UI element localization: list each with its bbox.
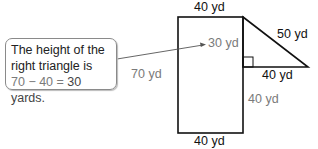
label-rect-left: 70 yd [131, 67, 162, 81]
label-hypotenuse: 50 yd [277, 27, 308, 41]
right-angle-marker [243, 57, 253, 67]
callout-equation: 70 − 40 = 30 yards. [11, 74, 111, 106]
label-triangle-base: 40 yd [262, 68, 293, 82]
explanation-callout: The height of the right triangle is 70 −… [5, 38, 117, 90]
callout-line-2: right triangle is [11, 58, 111, 74]
label-rect-top: 40 yd [194, 0, 225, 14]
callout-arrow [117, 45, 203, 59]
equation-expression: 70 − 40 = [11, 75, 67, 89]
label-lower-right: 40 yd [248, 92, 279, 106]
rectangle [178, 17, 243, 133]
arrow-head-icon [200, 43, 206, 48]
label-rect-bottom: 40 yd [194, 134, 225, 148]
callout-line-1: The height of the [11, 42, 111, 58]
label-triangle-height: 30 yd [208, 36, 239, 50]
